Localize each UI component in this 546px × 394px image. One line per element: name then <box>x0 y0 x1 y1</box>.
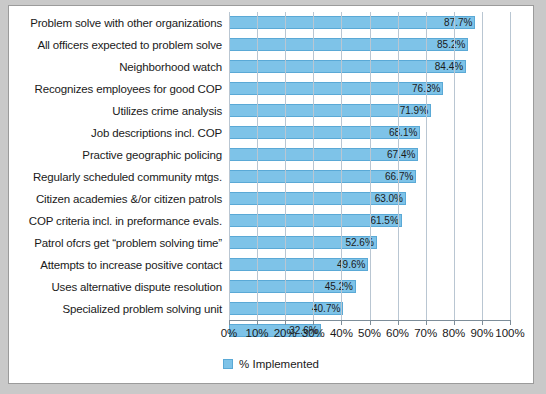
category-label: Practive geographic policing <box>15 149 229 161</box>
bar-value-label: 40.7% <box>312 302 343 315</box>
chart-card: Problem solve with other organizations87… <box>8 5 534 384</box>
bar-value-label: 87.7% <box>444 16 475 29</box>
category-label: All officers expected to problem solve <box>15 39 229 51</box>
bar-row: Practive geographic policing67.4% <box>15 144 525 166</box>
bar-row: Job descriptions incl. COP68.1% <box>15 122 525 144</box>
x-axis-tick <box>482 320 483 325</box>
bar-track: 84.4% <box>229 56 510 78</box>
bar-track: 66.7% <box>229 166 510 188</box>
x-axis-tick-label: 50% <box>358 327 381 339</box>
bar-track: 45.2% <box>229 276 510 298</box>
category-label: Specialized problem solving unit <box>15 303 229 315</box>
x-axis-tick <box>370 320 371 325</box>
category-label: Regularly scheduled community mtgs. <box>15 171 229 183</box>
category-label: Uses alternative dispute resolution <box>15 281 229 293</box>
bar-row: Problem solve with other organizations87… <box>15 12 525 34</box>
bar <box>229 16 475 29</box>
legend-swatch-icon <box>223 359 233 369</box>
bar-row: Utilizes crime analysis71.9% <box>15 100 525 122</box>
x-axis-tick <box>285 320 286 325</box>
bar-value-label: 84.4% <box>435 60 466 73</box>
x-axis-tick-label: 80% <box>442 327 465 339</box>
category-label: Recognizes employees for good COP <box>15 83 229 95</box>
category-label: Utilizes crime analysis <box>15 105 229 117</box>
x-axis-tick <box>398 320 399 325</box>
bar-row: Attempts to increase positive contact49.… <box>15 254 525 276</box>
x-axis-tick <box>257 320 258 325</box>
chart-legend: % Implemented <box>9 358 533 370</box>
category-label: COP criteria incl. in preformance evals. <box>15 215 229 227</box>
category-label: Patrol ofcrs get “problem solving time” <box>15 237 229 249</box>
bar-track: 67.4% <box>229 144 510 166</box>
bar-row: Citizen academies &/or citizen patrols63… <box>15 188 525 210</box>
bar-row: Uses alternative dispute resolution45.2% <box>15 276 525 298</box>
x-axis-tick-label: 10% <box>246 327 269 339</box>
bar-row: Regularly scheduled community mtgs.66.7% <box>15 166 525 188</box>
chart-figure: Problem solve with other organizations87… <box>0 0 546 394</box>
bar-track: 85.2% <box>229 34 510 56</box>
category-label: Citizen academies &/or citizen patrols <box>15 193 229 205</box>
bar-track: 61.5% <box>229 210 510 232</box>
x-axis-tick-label: 20% <box>274 327 297 339</box>
x-axis-tick-label: 90% <box>470 327 493 339</box>
x-axis-tick-label: 60% <box>386 327 409 339</box>
x-axis-tick-label: 0% <box>221 327 238 339</box>
bar-track: 63.0% <box>229 188 510 210</box>
x-axis-tick <box>426 320 427 325</box>
category-label: Attempts to increase positive contact <box>15 259 229 271</box>
category-label: Job descriptions incl. COP <box>15 127 229 139</box>
bar-value-label: 45.2% <box>325 280 356 293</box>
category-label: Neighborhood watch <box>15 61 229 73</box>
bar-row: Neighborhood watch84.4% <box>15 56 525 78</box>
x-axis-tick-label: 40% <box>330 327 353 339</box>
bar-value-label: 49.6% <box>337 258 368 271</box>
legend-label: % Implemented <box>239 358 319 370</box>
bar-track: 40.7% <box>229 298 510 320</box>
bar-track: 76.3% <box>229 78 510 100</box>
bar-track: 87.7% <box>229 12 510 34</box>
bar-track: 52.6% <box>229 232 510 254</box>
bar-value-label: 71.9% <box>400 104 431 117</box>
bar-track: 71.9% <box>229 100 510 122</box>
bar-value-label: 68.1% <box>389 126 420 139</box>
x-axis-tick <box>229 320 230 325</box>
bar-row: Patrol ofcrs get “problem solving time”5… <box>15 232 525 254</box>
bar-row: Specialized problem solving unit40.7% <box>15 298 525 320</box>
bar-value-label: 76.3% <box>412 82 443 95</box>
bar <box>229 38 468 51</box>
x-axis-tick <box>510 320 511 325</box>
x-axis-tick-label: 100% <box>495 327 524 339</box>
bar-row: All officers expected to problem solve85… <box>15 34 525 56</box>
bar-value-label: 67.4% <box>387 148 418 161</box>
x-axis-tick <box>454 320 455 325</box>
bar-row: Recognizes employees for good COP76.3% <box>15 78 525 100</box>
bar-value-label: 63.0% <box>375 192 406 205</box>
x-axis-tick <box>341 320 342 325</box>
bar-row: COP criteria incl. in preformance evals.… <box>15 210 525 232</box>
bar-value-label: 52.6% <box>345 236 376 249</box>
bar-track: 49.6% <box>229 254 510 276</box>
x-axis-tick-label: 70% <box>414 327 437 339</box>
x-axis-tick-label: 30% <box>302 327 325 339</box>
bar-value-label: 85.2% <box>437 38 468 51</box>
bar-track: 68.1% <box>229 122 510 144</box>
bar-value-label: 61.5% <box>370 214 401 227</box>
category-label: Problem solve with other organizations <box>15 17 229 29</box>
bar-rows: Problem solve with other organizations87… <box>15 12 525 320</box>
bar <box>229 60 466 73</box>
bar-value-label: 66.7% <box>385 170 416 183</box>
x-axis-tick <box>313 320 314 325</box>
